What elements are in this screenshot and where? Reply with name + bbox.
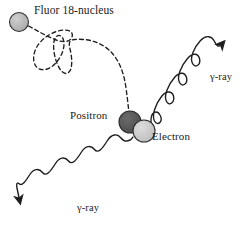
fluor-18-nucleus [10, 13, 29, 32]
label-electron: Electron [152, 131, 190, 142]
gamma-ray-lower-wave [17, 135, 133, 200]
label-gamma-ray-lower: γ-ray [77, 203, 99, 214]
positron-annihilation-diagram: Fluor 18-nucleus Positron Electron γ-ray… [0, 0, 251, 237]
gamma-ray-upper-wave [151, 37, 222, 133]
label-positron: Positron [70, 110, 107, 121]
label-gamma-ray-upper: γ-ray [210, 72, 232, 83]
positron-track [29, 26, 130, 114]
diagram-canvas [0, 0, 251, 237]
label-fluor-18-nucleus: Fluor 18-nucleus [34, 5, 114, 17]
